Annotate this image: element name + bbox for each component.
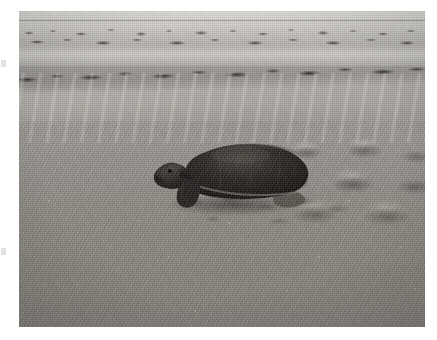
scan-artifact-mark-upper <box>1 60 6 67</box>
scan-artifact-mark-lower <box>1 248 6 255</box>
page-canvas: A green sea turtle crawling across a san… <box>0 0 437 340</box>
photo-vignette <box>19 11 425 327</box>
beach-turtle-photograph: A green sea turtle crawling across a san… <box>19 11 425 327</box>
